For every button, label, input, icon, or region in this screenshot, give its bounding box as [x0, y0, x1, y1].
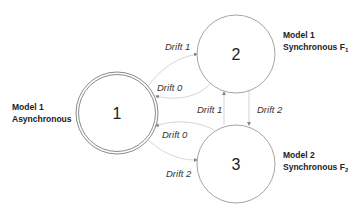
- node-2-title-line1: Model 1: [283, 30, 315, 40]
- edge-label-1-to-3: Drift 2: [166, 168, 192, 179]
- node-2-title-main: Synchronous F: [283, 42, 345, 52]
- state-diagram: 1 2 3 Drift 1 Drift 0 Drift 0 Drift 2 Dr…: [0, 0, 356, 214]
- edge-label-2-to-3: Drift 2: [257, 104, 283, 115]
- edge-1-to-3: [148, 140, 197, 160]
- edge-label-1-to-2: Drift 1: [165, 41, 190, 52]
- node-3-title-subscript: 2: [345, 167, 349, 173]
- edge-label-2-to-1: Drift 0: [157, 82, 183, 93]
- node-2-title-line2: Synchronous F1: [283, 42, 349, 53]
- node-2-label: 2: [232, 46, 241, 63]
- node-1-label: 1: [113, 105, 122, 122]
- node-3: 3: [197, 125, 275, 203]
- node-2-title-subscript: 1: [345, 47, 349, 53]
- node-3-title-line1: Model 2: [283, 150, 315, 160]
- node-1: 1: [76, 72, 158, 154]
- edge-label-3-to-1: Drift 0: [162, 129, 188, 140]
- node-3-title-main: Synchronous F: [283, 162, 345, 172]
- node-1-title-line1: Model 1: [12, 102, 44, 112]
- node-3-title-line2: Synchronous F2: [283, 162, 349, 173]
- node-2-title: Model 1 Synchronous F1: [283, 30, 349, 53]
- node-3-label: 3: [232, 156, 241, 173]
- edge-label-3-to-2: Drift 1: [197, 104, 222, 115]
- node-1-title-line2: Asynchronous: [12, 114, 72, 124]
- node-2: 2: [197, 15, 275, 93]
- node-3-title: Model 2 Synchronous F2: [283, 150, 349, 173]
- node-1-title: Model 1 Asynchronous: [12, 102, 72, 124]
